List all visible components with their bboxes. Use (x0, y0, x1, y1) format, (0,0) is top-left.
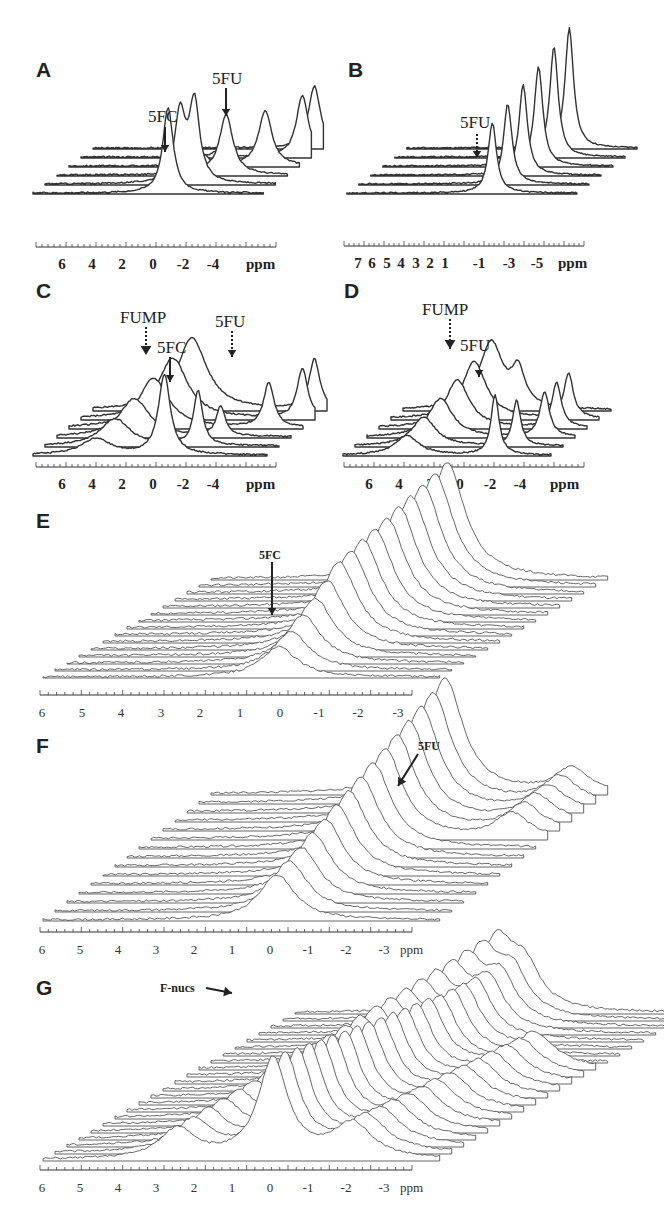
axis-tick-label: 0 (149, 476, 157, 492)
axis-tick-label: 4 (118, 705, 125, 720)
axis-tick-label: -4 (207, 476, 220, 492)
peak-annotation: 5FU (460, 113, 490, 132)
axis-unit-label: ppm (558, 255, 588, 271)
peak-annotation: F-nucs (160, 981, 195, 995)
panel-e: E 6543210-1-2-3ppm5FC (0, 505, 560, 735)
axis-tick-label: -2 (353, 705, 364, 720)
panel-d-plot: 6420-2-4ppmFUMP5FU (332, 285, 664, 510)
axis-tick-label: 7 (354, 255, 362, 271)
axis-tick-label: -1 (303, 942, 314, 957)
peak-annotation: 5FC (148, 107, 177, 126)
peak-annotation: 5FU (418, 739, 440, 753)
peak-annotation: FUMP (120, 308, 166, 327)
axis-tick-label: 5 (79, 705, 86, 720)
axis-tick-label: -2 (177, 476, 190, 492)
axis-tick-label: 2 (118, 256, 126, 272)
panel-b: B 7654321-1-3-5ppm5FU (332, 0, 664, 290)
axis-tick-label: 6 (365, 476, 373, 492)
axis-tick-label: -3 (379, 1180, 390, 1195)
axis-tick-label: -3 (393, 705, 404, 720)
panel-g: G 6543210-1-2-3ppmF-nucs (0, 970, 560, 1231)
axis-tick-label: 2 (191, 1180, 198, 1195)
axis-tick-label: -2 (341, 942, 352, 957)
axis-tick-label: 6 (368, 255, 376, 271)
axis-tick-label: -3 (503, 255, 516, 271)
axis-tick-label: 4 (395, 476, 403, 492)
axis-tick-label: 3 (412, 255, 420, 271)
axis-tick-label: 6 (58, 476, 66, 492)
axis-tick-label: 4 (88, 476, 96, 492)
axis-tick-label: 2 (118, 476, 126, 492)
axis-tick-label: -2 (341, 1180, 352, 1195)
axis-tick-label: -4 (207, 256, 220, 272)
axis-tick-label: 4 (115, 1180, 122, 1195)
axis-tick-label: 5 (77, 1180, 84, 1195)
panel-b-plot: 7654321-1-3-5ppm5FU (332, 0, 664, 290)
axis-tick-label: 5 (77, 942, 84, 957)
axis-tick-label: 0 (149, 256, 157, 272)
axis-tick-label: 4 (397, 255, 405, 271)
axis-tick-label: 2 (426, 255, 434, 271)
arrowhead-icon (223, 987, 232, 996)
arrowhead-icon (222, 109, 230, 116)
axis-tick-label: 2 (191, 942, 198, 957)
peak-annotation: FUMP (422, 300, 468, 319)
panel-a: A 6420-2-4ppm5FC5FU (0, 0, 332, 290)
panel-f: F 6543210-1-2-3ppm5FU (0, 730, 560, 970)
axis-tick-label: -1 (303, 1180, 314, 1195)
peak-annotation: 5FU (212, 69, 242, 88)
axis-tick-label: -4 (514, 476, 527, 492)
axis-tick-label: -1 (473, 255, 486, 271)
spectrum-trace (403, 340, 611, 411)
peak-annotation: 5FU (215, 312, 245, 331)
axis-tick-label: 3 (158, 705, 165, 720)
axis-unit-label: ppm (246, 256, 276, 272)
panel-g-plot: 6543210-1-2-3ppmF-nucs (0, 970, 560, 1231)
axis-tick-label: -1 (314, 705, 325, 720)
axis-tick-label: -2 (177, 256, 190, 272)
spectrum-trace (93, 338, 327, 411)
axis-tick-label: 0 (267, 942, 274, 957)
axis-unit-label: ppm (246, 476, 276, 492)
axis-tick-label: -2 (484, 476, 497, 492)
arrowhead-icon (445, 340, 456, 349)
axis-tick-label: 1 (237, 705, 244, 720)
peak-annotation: 5FU (460, 336, 490, 355)
peak-annotation: 5FC (259, 548, 281, 562)
axis-tick-label: 1 (441, 255, 449, 271)
axis-tick-label: 3 (153, 1180, 160, 1195)
panel-a-plot: 6420-2-4ppm5FC5FU (0, 0, 332, 290)
panel-d: D 6420-2-4ppmFUMP5FU (332, 285, 664, 510)
axis-tick-label: -3 (379, 942, 390, 957)
panel-e-plot: 6543210-1-2-3ppm5FC (0, 505, 560, 735)
panel-f-plot: 6543210-1-2-3ppm5FU (0, 730, 560, 970)
panel-c-plot: 6420-2-4ppmFUMP5FC5FU (0, 285, 332, 510)
axis-tick-label: 6 (39, 942, 46, 957)
axis-tick-label: 6 (58, 256, 66, 272)
axis-tick-label: 0 (267, 1180, 274, 1195)
axis-tick-label: 1 (229, 1180, 236, 1195)
axis-unit-label: ppm (400, 942, 423, 957)
axis-unit-label: ppm (400, 1180, 423, 1195)
axis-tick-label: 4 (88, 256, 96, 272)
arrowhead-icon (228, 350, 236, 357)
peak-annotation: 5FC (157, 338, 186, 357)
axis-tick-label: 6 (39, 1180, 46, 1195)
axis-tick-label: 2 (197, 705, 204, 720)
arrowhead-icon (141, 346, 152, 355)
axis-tick-label: 1 (229, 942, 236, 957)
spectrum-trace (93, 86, 323, 149)
axis-tick-label: 4 (115, 942, 122, 957)
axis-unit-label: ppm (550, 476, 580, 492)
axis-tick-label: -5 (531, 255, 544, 271)
axis-tick-label: 0 (277, 705, 284, 720)
axis-tick-label: 3 (153, 942, 160, 957)
axis-tick-label: 5 (383, 255, 391, 271)
panel-c: C 6420-2-4ppmFUMP5FC5FU (0, 285, 332, 510)
axis-tick-label: 6 (39, 705, 46, 720)
